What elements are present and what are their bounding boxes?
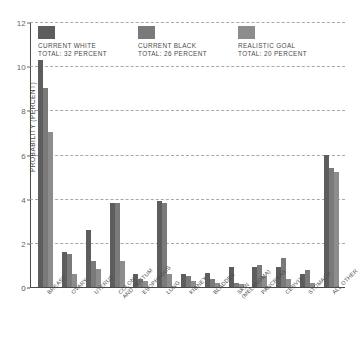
bar-group [319,22,343,287]
y-tick-label: 8 [21,107,26,116]
bar-group [82,22,106,287]
bar-group [129,22,153,287]
x-label-slot: ESOPHAGUS [129,289,153,337]
legend-swatch [238,26,255,39]
legend-swatch [38,26,55,39]
bar-group [153,22,177,287]
legend-series-name: REALISTIC GOAL [238,42,338,50]
y-tick-label: 2 [21,239,26,248]
x-label-slot: BREAST [34,289,58,337]
legend-item: CURRENT WHITETOTAL: 32 PERCENT [38,26,138,58]
x-label-slot: CERVIX [272,289,296,337]
y-tick-label: 10 [17,63,26,72]
x-label-slot: UTERUS [82,289,106,337]
bar-group [200,22,224,287]
legend-swatch [138,26,155,39]
legend-series-total: TOTAL: 32 PERCENT [38,50,138,58]
bar [48,132,53,287]
legend-series-total: TOTAL: 20 PERCENT [238,50,338,58]
legend-item: REALISTIC GOALTOTAL: 20 PERCENT [238,26,338,58]
legend-item: CURRENT BLACKTOTAL: 26 PERCENT [138,26,238,58]
bar-group [177,22,201,287]
x-label-slot: OVARY [58,289,82,337]
bar-group [58,22,82,287]
x-label-slot: BLADDER [200,289,224,337]
bar-groups [30,22,345,287]
x-label-slot: STOMACH [295,289,319,337]
x-label-slot: SKIN (MELANOMA) [224,289,248,337]
y-tick-label: 0 [21,284,26,293]
bar-group [34,22,58,287]
plot-area: 024681012 PROBABILITY (PERCENT) [30,22,345,287]
y-tick-label: 6 [21,151,26,160]
bar-group [105,22,129,287]
x-axis-labels: BREASTOVARYUTERUSCOLON AND RECTUMESOPHAG… [30,289,345,337]
y-tick-label: 4 [21,195,26,204]
x-label-slot: PANCREAS [248,289,272,337]
bar-group [224,22,248,287]
chart-legend: CURRENT WHITETOTAL: 32 PERCENTCURRENT BL… [38,26,338,58]
bar-group [295,22,319,287]
bar-group [248,22,272,287]
y-tick-label: 12 [17,19,26,28]
x-label-slot: LUNG [153,289,177,337]
legend-series-total: TOTAL: 26 PERCENT [138,50,238,58]
legend-series-name: CURRENT BLACK [138,42,238,50]
bar [334,172,339,287]
x-label-slot: KIDNEY [177,289,201,337]
bar-group [272,22,296,287]
x-label-slot: COLON AND RECTUM [105,289,129,337]
x-label-slot: ALL OTHER [319,289,343,337]
legend-series-name: CURRENT WHITE [38,42,138,50]
